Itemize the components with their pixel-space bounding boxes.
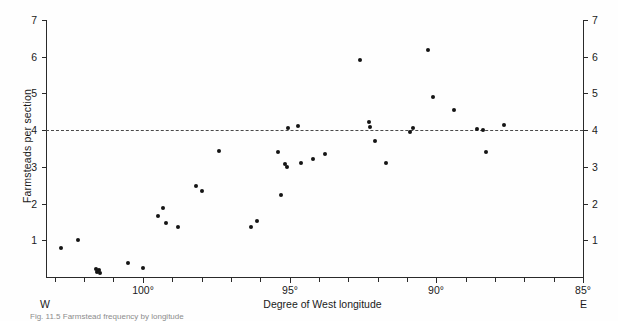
y-tick-label-right: 3	[592, 162, 612, 172]
data-point	[484, 150, 488, 154]
y-tick-label-right: 4	[592, 125, 612, 135]
data-point	[59, 246, 63, 250]
data-point	[323, 152, 327, 156]
data-point	[452, 108, 456, 112]
x-tick-minor	[231, 278, 232, 282]
y-tick-left	[42, 93, 47, 94]
x-tick-minor	[348, 278, 349, 282]
data-point	[502, 123, 506, 127]
data-point	[76, 238, 80, 242]
east-edge-label: E	[580, 299, 587, 310]
data-point	[481, 128, 485, 132]
data-point	[367, 120, 371, 124]
x-tick-minor	[55, 278, 56, 282]
y-tick-label: 6	[17, 52, 37, 62]
data-point	[141, 266, 145, 270]
data-point	[249, 225, 253, 229]
data-point	[156, 214, 160, 218]
y-tick-label: 1	[17, 235, 37, 245]
y-tick-label: 5	[17, 88, 37, 98]
data-point	[299, 161, 303, 165]
data-point	[408, 130, 412, 134]
data-point	[200, 189, 204, 193]
y-tick-left	[42, 204, 47, 205]
data-point	[279, 193, 283, 197]
x-tick-minor	[202, 278, 203, 282]
reference-line-4	[46, 130, 583, 131]
x-tick-minor	[495, 278, 496, 282]
x-tick-major	[583, 278, 584, 283]
x-tick-minor	[466, 278, 467, 282]
data-point	[368, 125, 372, 129]
y-tick-label-right: 7	[592, 15, 612, 25]
y-tick-right	[583, 57, 588, 58]
x-tick-label: 85°	[553, 285, 613, 296]
data-point	[176, 225, 180, 229]
x-tick-major	[143, 278, 144, 283]
x-tick-minor	[524, 278, 525, 282]
x-tick-minor	[172, 278, 173, 282]
x-tick-minor	[407, 278, 408, 282]
x-axis-spine	[46, 277, 584, 278]
y-tick-left	[42, 240, 47, 241]
x-tick-minor	[554, 278, 555, 282]
data-point	[276, 150, 280, 154]
y-tick-label: 7	[17, 15, 37, 25]
y-tick-label: 2	[17, 199, 37, 209]
data-point	[358, 58, 362, 62]
y-tick-right	[583, 167, 588, 168]
x-tick-minor	[319, 278, 320, 282]
x-tick-minor	[378, 278, 379, 282]
data-point	[296, 124, 300, 128]
y-tick-right	[583, 240, 588, 241]
data-point	[285, 165, 289, 169]
x-axis-title: Degree of West longitude	[203, 299, 443, 310]
x-tick-label: 95°	[260, 285, 320, 296]
y-tick-label: 3	[17, 162, 37, 172]
data-point	[98, 271, 102, 275]
west-edge-label: W	[40, 299, 50, 310]
x-tick-minor	[260, 278, 261, 282]
data-point	[126, 261, 130, 265]
data-point	[194, 184, 198, 188]
y-tick-label-right: 5	[592, 88, 612, 98]
y-tick-right	[583, 204, 588, 205]
data-point	[431, 95, 435, 99]
x-tick-label: 100°	[113, 285, 173, 296]
x-tick-major	[290, 278, 291, 283]
data-point	[217, 149, 221, 153]
data-point	[384, 161, 388, 165]
y-tick-label-right: 1	[592, 235, 612, 245]
y-tick-right	[583, 20, 588, 21]
y-tick-label-right: 2	[592, 199, 612, 209]
data-point	[161, 206, 165, 210]
y-tick-right	[583, 93, 588, 94]
y-tick-label: 4	[17, 125, 37, 135]
x-tick-minor	[84, 278, 85, 282]
x-tick-major	[436, 278, 437, 283]
data-point	[255, 219, 259, 223]
figure-caption: Fig. 11.5 Farmstead frequency by longitu…	[30, 312, 450, 321]
y-axis-title: Farmsteads per section	[21, 31, 33, 261]
data-point	[164, 221, 168, 225]
x-tick-minor	[113, 278, 114, 282]
y-tick-left	[42, 167, 47, 168]
x-tick-label: 90°	[406, 285, 466, 296]
y-tick-left	[42, 20, 47, 21]
y-tick-label-right: 6	[592, 52, 612, 62]
y-tick-left	[42, 57, 47, 58]
y-tick-right	[583, 130, 588, 131]
data-point	[373, 139, 377, 143]
data-point	[426, 48, 430, 52]
data-point	[311, 157, 315, 161]
